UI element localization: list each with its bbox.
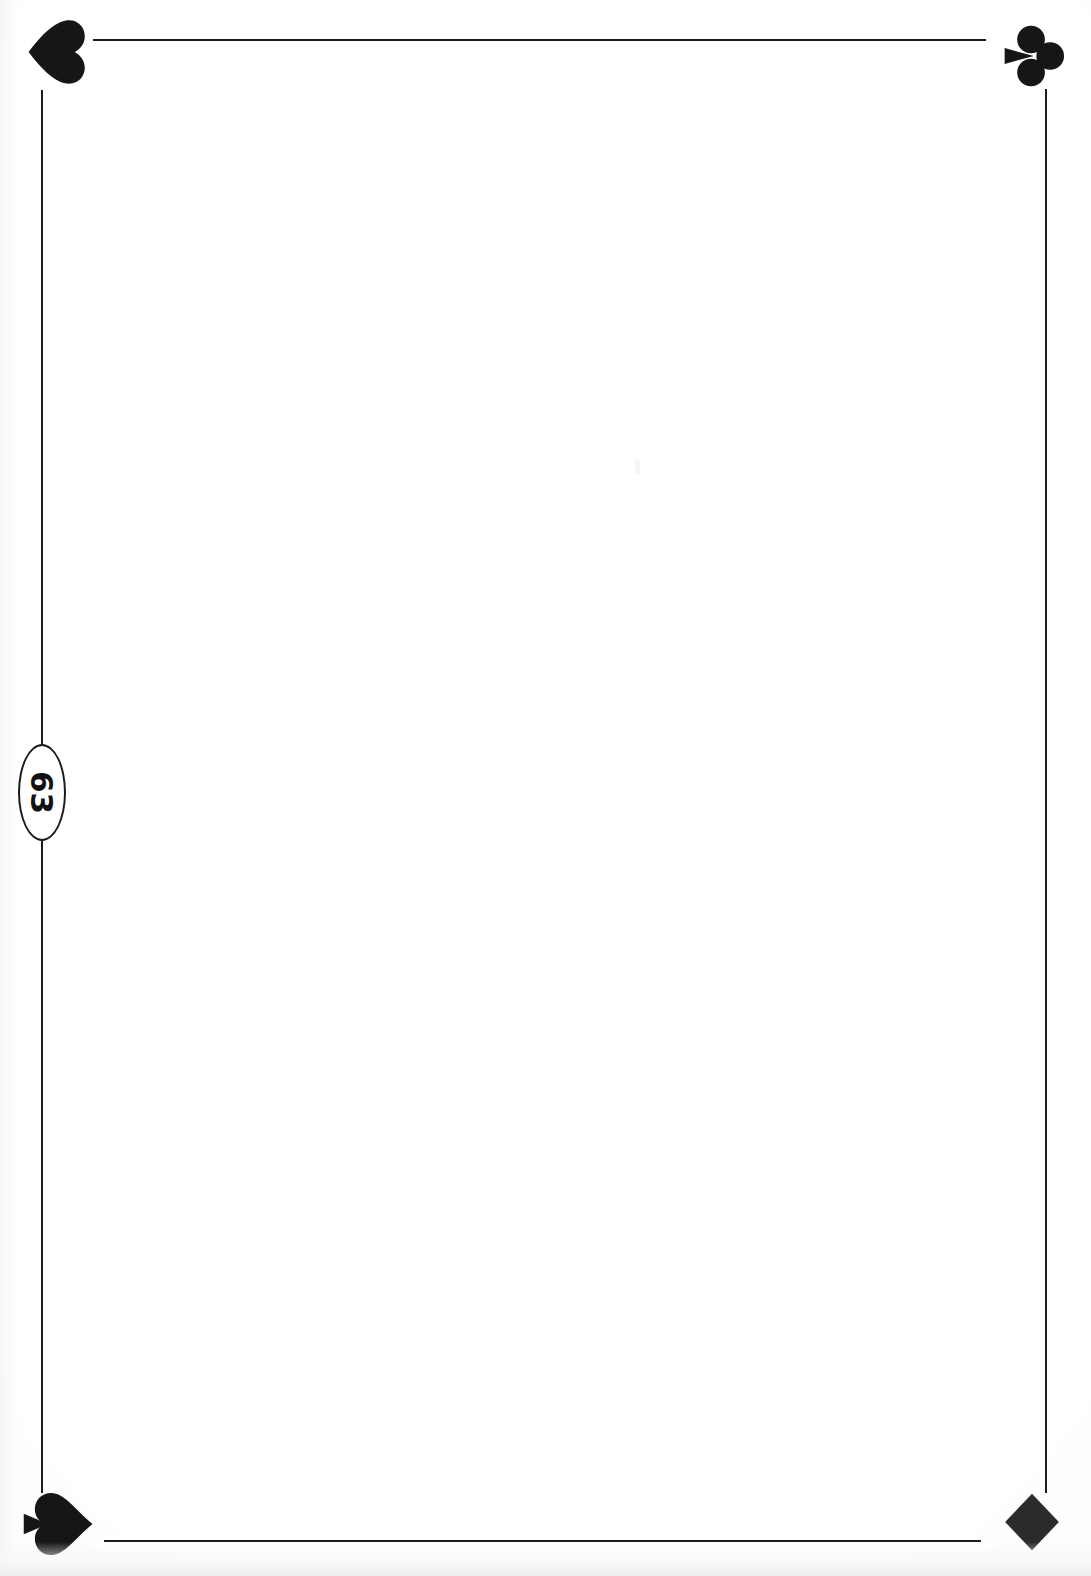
frame-top-rule bbox=[93, 39, 986, 41]
frame-bottom-rule bbox=[104, 1540, 981, 1542]
club-icon bbox=[1002, 20, 1068, 92]
frame-left-lower-rule bbox=[41, 839, 43, 1493]
frame-left-upper-rule bbox=[41, 90, 43, 746]
heart-icon bbox=[18, 16, 94, 88]
scan-edge-bottom bbox=[0, 1542, 1091, 1576]
scanned-page: 63 bbox=[0, 0, 1091, 1576]
page-number-medallion: 63 bbox=[18, 744, 66, 841]
page-number: 63 bbox=[0, 769, 91, 817]
spade-icon bbox=[21, 1487, 99, 1561]
scan-artifact bbox=[635, 460, 640, 474]
diamond-icon bbox=[1000, 1487, 1064, 1557]
page-body bbox=[95, 60, 985, 1520]
frame-right-rule bbox=[1045, 89, 1047, 1493]
